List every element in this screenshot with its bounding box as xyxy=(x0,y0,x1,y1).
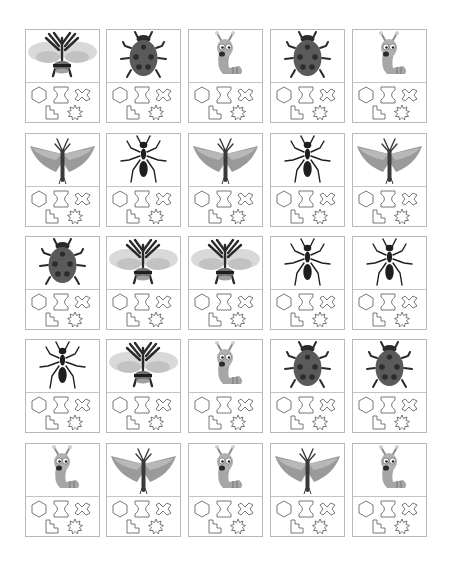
hourglass-shape xyxy=(54,87,68,103)
insect-card-ant xyxy=(25,339,100,433)
staircase-shape xyxy=(373,520,385,533)
starburst-shape xyxy=(149,105,164,120)
starburst-shape xyxy=(231,105,246,120)
hexagon-shape xyxy=(113,501,127,517)
cross-shape xyxy=(75,296,90,308)
moth-icon xyxy=(107,444,180,496)
shape-set xyxy=(189,393,262,432)
cross-shape xyxy=(156,503,171,515)
starburst-shape xyxy=(395,105,410,120)
staircase-shape xyxy=(209,520,221,533)
ladybug-icon xyxy=(353,340,426,392)
hexagon-shape xyxy=(195,501,209,517)
insect-picture xyxy=(271,444,344,496)
starburst-shape xyxy=(313,415,328,430)
insect-picture xyxy=(271,340,344,392)
hexagon-shape xyxy=(32,191,46,207)
insect-picture xyxy=(189,134,262,186)
insect-card-moth xyxy=(270,443,345,537)
insect-card-bee xyxy=(106,339,181,433)
starburst-shape xyxy=(68,209,83,224)
hexagon-shape xyxy=(32,501,46,517)
insect-picture xyxy=(189,444,262,496)
insect-card-ladybug xyxy=(270,29,345,123)
hexagon-shape xyxy=(32,294,46,310)
shape-choices xyxy=(271,83,344,122)
hexagon-shape xyxy=(277,294,291,310)
cross-shape xyxy=(156,399,171,411)
worm-icon xyxy=(189,30,262,82)
insect-picture xyxy=(107,237,180,289)
insect-picture xyxy=(107,134,180,186)
insect-picture xyxy=(26,237,99,289)
shape-set xyxy=(353,393,426,432)
hexagon-shape xyxy=(195,397,209,413)
starburst-shape xyxy=(231,415,246,430)
insect-card-ant xyxy=(352,236,427,330)
hexagon-shape xyxy=(359,501,373,517)
insect-card-worm xyxy=(352,443,427,537)
insect-picture xyxy=(107,340,180,392)
cross-shape xyxy=(402,503,417,515)
hourglass-shape xyxy=(54,294,68,310)
cross-shape xyxy=(75,89,90,101)
starburst-shape xyxy=(149,312,164,327)
bee-icon xyxy=(189,237,262,289)
shape-choices xyxy=(26,187,99,226)
bee-icon xyxy=(107,340,180,392)
shape-set xyxy=(353,497,426,536)
ant-icon xyxy=(271,237,344,289)
hexagon-shape xyxy=(277,87,291,103)
cross-shape xyxy=(238,296,253,308)
shape-choices xyxy=(189,187,262,226)
insect-card-ladybug xyxy=(106,29,181,123)
starburst-shape xyxy=(313,519,328,534)
insect-picture xyxy=(26,134,99,186)
shape-set xyxy=(353,83,426,122)
starburst-shape xyxy=(149,519,164,534)
shape-choices xyxy=(271,497,344,536)
shape-set xyxy=(107,290,180,329)
staircase-shape xyxy=(291,106,303,119)
cross-shape xyxy=(320,296,335,308)
shape-set xyxy=(271,187,344,226)
staircase-shape xyxy=(209,210,221,223)
staircase-shape xyxy=(373,106,385,119)
insect-card-worm xyxy=(188,339,263,433)
insect-card-ladybug xyxy=(352,339,427,433)
insect-picture xyxy=(189,340,262,392)
starburst-shape xyxy=(395,519,410,534)
insect-picture xyxy=(107,30,180,82)
shape-choices xyxy=(271,290,344,329)
hourglass-shape xyxy=(217,397,231,413)
shape-set xyxy=(189,497,262,536)
hourglass-shape xyxy=(135,397,149,413)
hexagon-shape xyxy=(277,501,291,517)
insect-picture xyxy=(353,444,426,496)
cross-shape xyxy=(156,296,171,308)
staircase-shape xyxy=(209,313,221,326)
hexagon-shape xyxy=(277,397,291,413)
hexagon-shape xyxy=(277,191,291,207)
cross-shape xyxy=(75,399,90,411)
shape-set xyxy=(26,83,99,122)
insect-picture xyxy=(189,237,262,289)
starburst-shape xyxy=(68,415,83,430)
moth-icon xyxy=(271,444,344,496)
hexagon-shape xyxy=(359,87,373,103)
staircase-shape xyxy=(127,520,139,533)
starburst-shape xyxy=(231,312,246,327)
shape-choices xyxy=(26,393,99,432)
starburst-shape xyxy=(313,105,328,120)
insect-card-moth xyxy=(352,133,427,227)
shape-choices xyxy=(107,187,180,226)
shape-set xyxy=(107,497,180,536)
insect-picture xyxy=(271,134,344,186)
starburst-shape xyxy=(395,415,410,430)
insect-card-moth xyxy=(25,133,100,227)
moth-icon xyxy=(353,134,426,186)
shape-set xyxy=(271,83,344,122)
staircase-shape xyxy=(127,416,139,429)
insect-picture xyxy=(271,30,344,82)
cross-shape xyxy=(402,89,417,101)
